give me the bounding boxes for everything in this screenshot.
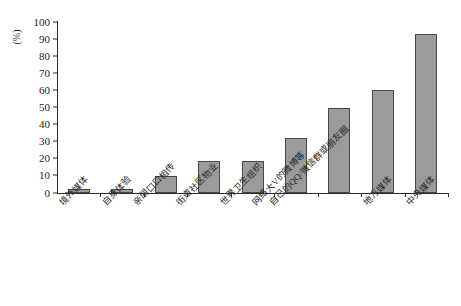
- y-tick-mark: [53, 158, 57, 159]
- y-tick: 80: [11, 55, 57, 56]
- y-tick: 0: [11, 192, 57, 193]
- y-tick: 60: [11, 89, 57, 90]
- x-tick-mark: [318, 193, 319, 197]
- y-tick-mark: [53, 55, 57, 56]
- y-tick-label: 70: [39, 67, 50, 79]
- y-tick-mark: [53, 107, 57, 108]
- y-tick-label: 60: [39, 84, 50, 96]
- y-tick-label: 50: [39, 101, 50, 113]
- y-tick-label: 10: [39, 169, 50, 181]
- y-tick-mark: [53, 89, 57, 90]
- y-tick: 10: [11, 175, 57, 176]
- bar-chart-figure: (%) 0102030405060708090100 境外媒体自身体验亲朋口口相…: [0, 0, 461, 306]
- y-tick-label: 80: [39, 50, 50, 62]
- y-tick-label: 20: [39, 152, 50, 164]
- y-tick-label: 100: [34, 16, 51, 28]
- y-tick-mark: [53, 141, 57, 142]
- bar: [415, 34, 437, 193]
- y-tick: 30: [11, 141, 57, 142]
- bar: [328, 108, 350, 194]
- y-tick-label: 30: [39, 135, 50, 147]
- y-tick-mark: [53, 21, 57, 22]
- y-tick: 20: [11, 158, 57, 159]
- x-tick-mark: [100, 193, 101, 197]
- y-tick: 100: [11, 21, 57, 22]
- y-tick: 90: [11, 38, 57, 39]
- y-tick-mark: [53, 38, 57, 39]
- y-axis-unit-label: (%): [0, 24, 34, 50]
- x-tick-mark: [405, 193, 406, 197]
- y-tick-mark: [53, 175, 57, 176]
- y-tick: 70: [11, 72, 57, 73]
- y-tick-mark: [53, 124, 57, 125]
- y-tick-label: 0: [45, 187, 51, 199]
- x-tick-mark: [448, 193, 449, 197]
- y-tick-label: 90: [39, 33, 50, 45]
- y-tick-mark: [53, 72, 57, 73]
- y-tick-label: 40: [39, 118, 50, 130]
- y-tick: 50: [11, 107, 57, 108]
- x-tick-mark: [361, 193, 362, 197]
- y-tick: 40: [11, 124, 57, 125]
- y-tick-mark: [53, 192, 57, 193]
